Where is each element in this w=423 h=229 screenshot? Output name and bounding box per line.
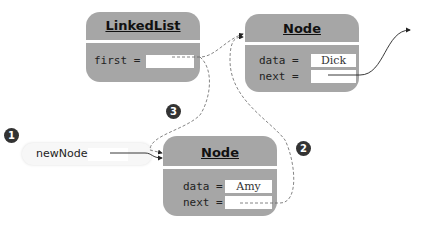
pointer-arrows — [0, 0, 423, 229]
